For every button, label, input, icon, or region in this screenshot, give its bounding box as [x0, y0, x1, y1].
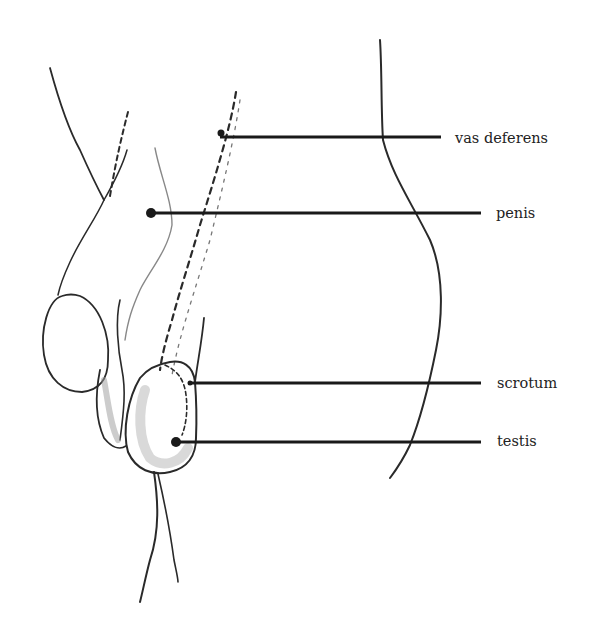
testis-shading — [140, 390, 188, 463]
epididymis-dashed — [165, 365, 187, 435]
label-scrotum: scrotum — [497, 376, 557, 391]
body-contour — [380, 40, 441, 478]
thigh-contour — [50, 68, 104, 200]
leader-dot-scrotum — [188, 381, 193, 386]
pubic-hair-line — [58, 150, 127, 295]
penis-shaft — [125, 148, 172, 340]
leader-dot-penis — [146, 208, 156, 218]
scrotal-shading-left — [104, 380, 118, 440]
anatomy-illustration — [0, 0, 595, 639]
cord-strand-2 — [158, 474, 178, 582]
label-vas-deferens: vas deferens — [455, 131, 548, 146]
label-penis: penis — [496, 206, 535, 221]
scrotal-fold — [117, 300, 124, 440]
cord-strand-1 — [140, 472, 157, 602]
leader-dot-testis — [171, 437, 181, 447]
scrotum-right-edge — [195, 318, 204, 382]
vas-deferens-dashed-2 — [172, 100, 240, 375]
label-testis: testis — [497, 434, 537, 449]
leader-dot-vas-deferens — [218, 130, 225, 137]
